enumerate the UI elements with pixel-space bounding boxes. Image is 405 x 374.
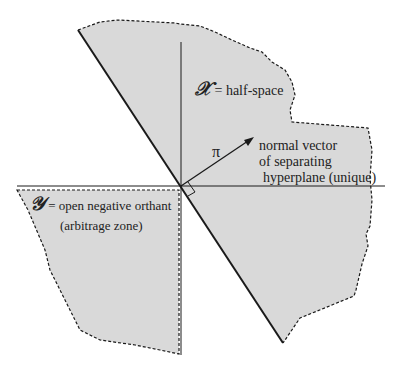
diagram-canvas: 𝒳 = half-space π normal vector of separa… xyxy=(0,0,405,374)
normal-text-line1: normal vector xyxy=(259,138,337,153)
pi-label: π xyxy=(212,143,220,160)
normal-text-line3: hyperplane (unique) xyxy=(263,170,376,186)
y-text-line2: (arbitrage zone) xyxy=(60,218,143,233)
x-text: = half-space xyxy=(211,83,283,98)
orthant-region xyxy=(17,190,179,354)
normal-text-line2: of separating xyxy=(259,154,332,169)
y-text: = open negative orthant xyxy=(45,198,172,213)
